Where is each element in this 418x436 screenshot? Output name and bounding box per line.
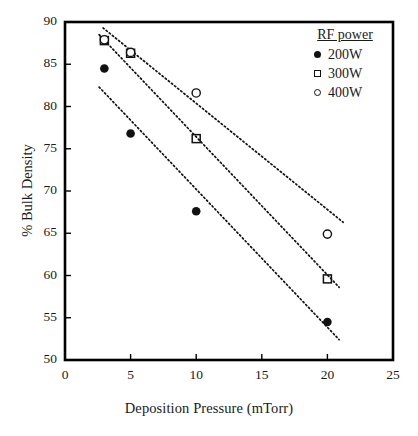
x-tick-label: 20 [310, 367, 344, 383]
data-point-200w-2 [192, 207, 201, 216]
data-point-400w-3 [323, 230, 331, 238]
data-point-400w-0 [100, 36, 108, 44]
y-tick-label: 70 [23, 182, 57, 198]
y-tick-label: 50 [23, 351, 57, 367]
legend-label-300w: 300W [325, 66, 362, 82]
legend-label-400w: 400W [325, 85, 362, 101]
legend: RF power 200W 300W 400W [299, 27, 391, 102]
data-point-400w-1 [127, 48, 135, 56]
y-tick-label: 90 [23, 13, 57, 29]
filled-circle-icon [309, 47, 325, 63]
data-point-200w-3 [323, 318, 332, 327]
legend-item-400w: 400W [299, 83, 391, 102]
data-point-200w-1 [126, 129, 135, 138]
y-tick-label: 60 [23, 267, 57, 283]
chart-figure: Deposition Pressure (mTorr) % Bulk Densi… [0, 0, 418, 436]
open-square-icon [309, 66, 325, 82]
data-point-400w-2 [192, 89, 200, 97]
legend-item-200w: 200W [299, 45, 391, 64]
data-point-200w-0 [100, 64, 109, 73]
y-tick-label: 80 [23, 98, 57, 114]
y-tick-label: 85 [23, 55, 57, 71]
x-tick-label: 10 [179, 367, 213, 383]
y-tick-label: 65 [23, 224, 57, 240]
x-tick-label: 15 [245, 367, 279, 383]
x-tick-label: 5 [114, 367, 148, 383]
legend-item-300w: 300W [299, 64, 391, 83]
open-circle-icon [309, 85, 325, 101]
x-axis-title: Deposition Pressure (mTorr) [0, 400, 418, 417]
x-tick-label: 25 [376, 367, 410, 383]
x-tick-label: 0 [48, 367, 82, 383]
legend-label-200w: 200W [325, 47, 362, 63]
y-tick-label: 55 [23, 309, 57, 325]
y-tick-label: 75 [23, 140, 57, 156]
legend-title: RF power [299, 27, 391, 45]
